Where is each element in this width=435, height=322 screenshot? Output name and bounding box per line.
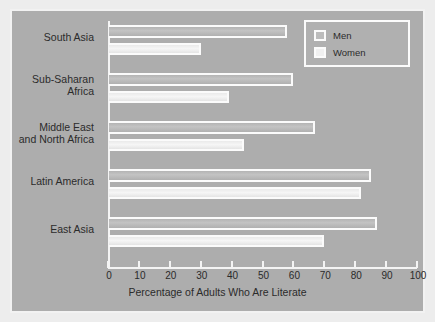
plot-area: 0102030405060708090100 South AsiaSub-Sah…	[12, 11, 423, 311]
bar-men	[109, 121, 315, 134]
category-label: Latin America	[0, 175, 94, 187]
x-tick-label: 30	[187, 270, 217, 282]
bar-men	[109, 217, 377, 230]
legend-label-women: Women	[333, 47, 366, 58]
bar-women	[109, 187, 361, 199]
category-label: South Asia	[0, 31, 94, 43]
literacy-bar-chart: 0102030405060708090100 South AsiaSub-Sah…	[0, 0, 435, 322]
x-tick-label: 50	[249, 270, 279, 282]
legend-label-men: Men	[333, 30, 351, 41]
x-tick-label: 40	[218, 270, 248, 282]
category-label: East Asia	[0, 223, 94, 235]
x-axis-title: Percentage of Adults Who Are Literate	[12, 286, 423, 298]
legend-item-women: Women	[314, 44, 408, 61]
legend-item-men: Men	[314, 27, 408, 44]
x-tick	[354, 261, 356, 268]
bar-women	[109, 43, 201, 55]
x-tick	[200, 261, 202, 268]
x-tick-label: 20	[156, 270, 186, 282]
category-label: Sub-SaharanAfrica	[0, 73, 94, 97]
x-tick-label: 100	[403, 270, 433, 282]
bar-men	[109, 73, 293, 86]
x-tick	[231, 261, 233, 268]
x-tick	[416, 261, 418, 268]
category-label: Middle Eastand North Africa	[0, 121, 94, 145]
x-tick-label: 80	[341, 270, 371, 282]
women-swatch-icon	[314, 47, 326, 58]
chart-panel: 0102030405060708090100 South AsiaSub-Sah…	[10, 9, 425, 313]
bar-women	[109, 139, 244, 151]
x-tick-label: 0	[94, 270, 124, 282]
bar-women	[109, 91, 229, 103]
x-tick	[385, 261, 387, 268]
x-tick	[262, 261, 264, 268]
men-swatch-icon	[314, 30, 326, 41]
bar-men	[109, 25, 287, 38]
chart-legend: Men Women	[304, 20, 410, 67]
x-tick-label: 90	[372, 270, 402, 282]
bar-women	[109, 235, 324, 247]
x-tick-label: 60	[279, 270, 309, 282]
x-tick-label: 10	[125, 270, 155, 282]
x-tick	[138, 261, 140, 268]
x-tick-label: 70	[310, 270, 340, 282]
bar-men	[109, 169, 371, 182]
x-tick	[323, 261, 325, 268]
x-tick	[169, 261, 171, 268]
x-tick	[292, 261, 294, 268]
x-tick	[107, 261, 109, 268]
